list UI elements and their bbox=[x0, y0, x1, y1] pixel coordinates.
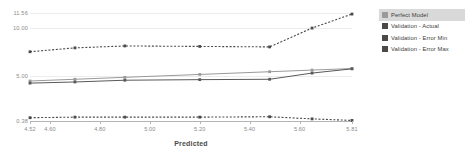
y-tick-label: 5.00 bbox=[16, 73, 28, 79]
legend-swatch-icon bbox=[382, 23, 388, 29]
data-point-marker bbox=[268, 70, 271, 73]
data-point-marker bbox=[351, 13, 354, 16]
x-tick-label: 5.60 bbox=[294, 126, 305, 132]
x-tick-label: 5.20 bbox=[194, 126, 205, 132]
plot-area bbox=[30, 13, 352, 121]
x-tick-mark bbox=[150, 121, 151, 124]
legend-swatch-icon bbox=[382, 46, 388, 52]
chart-root: 11.5610.005.000.38 4.524.604.805.005.205… bbox=[0, 0, 465, 155]
series-line bbox=[30, 69, 352, 83]
legend-item-label: Validation - Error Min bbox=[391, 35, 447, 41]
x-tick-mark bbox=[50, 121, 51, 124]
y-tick-label: 0.38 bbox=[16, 118, 28, 124]
series-layer bbox=[30, 13, 352, 121]
x-tick-mark bbox=[100, 121, 101, 124]
y-tick-label: 10.00 bbox=[13, 25, 28, 31]
legend-item-label: Perfect Model bbox=[391, 12, 428, 18]
data-point-marker bbox=[74, 116, 77, 119]
x-tick-label: 5.40 bbox=[244, 126, 255, 132]
x-tick-label: 4.60 bbox=[44, 126, 55, 132]
x-tick-label: 4.80 bbox=[94, 126, 105, 132]
series-line bbox=[30, 14, 352, 52]
legend-swatch-icon bbox=[382, 35, 388, 41]
data-point-marker bbox=[123, 45, 126, 48]
data-point-marker bbox=[198, 73, 201, 76]
chart-legend: Perfect ModelValidation - ActualValidati… bbox=[379, 9, 465, 55]
legend-item-label: Validation - Actual bbox=[391, 23, 439, 29]
x-axis-title: Predicted bbox=[30, 140, 352, 147]
data-point-marker bbox=[268, 78, 271, 81]
x-tick-mark bbox=[30, 121, 31, 124]
data-point-marker bbox=[74, 46, 77, 49]
data-point-marker bbox=[123, 116, 126, 119]
data-point-marker bbox=[123, 76, 126, 79]
legend-item[interactable]: Perfect Model bbox=[379, 9, 465, 21]
data-point-marker bbox=[74, 81, 77, 84]
x-tick-mark bbox=[200, 121, 201, 124]
data-point-marker bbox=[198, 45, 201, 48]
x-tick-mark bbox=[352, 121, 353, 124]
data-point-marker bbox=[311, 72, 314, 75]
data-point-marker bbox=[311, 27, 314, 30]
legend-item[interactable]: Validation - Error Max bbox=[379, 44, 465, 56]
data-point-marker bbox=[311, 117, 314, 120]
data-point-marker bbox=[198, 116, 201, 119]
data-point-marker bbox=[29, 116, 32, 119]
data-point-marker bbox=[123, 79, 126, 82]
x-tick-label: 5.81 bbox=[346, 126, 357, 132]
data-point-marker bbox=[311, 69, 314, 72]
data-point-marker bbox=[268, 115, 271, 118]
data-point-marker bbox=[198, 78, 201, 81]
y-tick-label: 11.56 bbox=[13, 10, 28, 16]
legend-item-label: Validation - Error Max bbox=[391, 46, 449, 52]
x-tick-label: 5.00 bbox=[144, 126, 155, 132]
series-line bbox=[30, 117, 352, 121]
chart-plot-container: 11.5610.005.000.38 4.524.604.805.005.205… bbox=[0, 0, 360, 155]
data-point-marker bbox=[29, 50, 32, 53]
legend-swatch-icon bbox=[382, 12, 388, 18]
legend-item[interactable]: Validation - Error Min bbox=[379, 32, 465, 44]
x-tick-mark bbox=[250, 121, 251, 124]
data-point-marker bbox=[74, 78, 77, 81]
x-tick-label: 4.52 bbox=[24, 126, 35, 132]
data-point-marker bbox=[29, 82, 32, 85]
data-point-marker bbox=[268, 46, 271, 49]
x-tick-mark bbox=[300, 121, 301, 124]
legend-item[interactable]: Validation - Actual bbox=[379, 21, 465, 33]
data-point-marker bbox=[351, 67, 354, 70]
x-axis: 4.524.604.805.005.205.405.605.81 bbox=[30, 121, 352, 141]
